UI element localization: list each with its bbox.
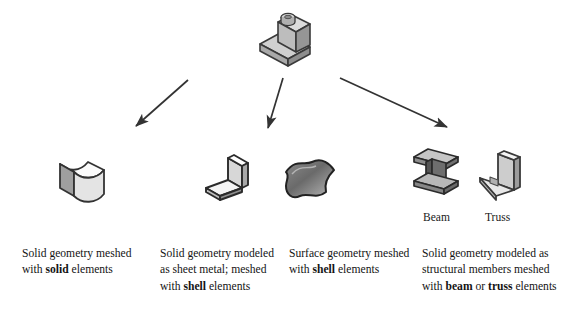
label-truss: Truss (485, 211, 510, 224)
caption-sheet-metal: Solid geometry modeled as sheet metal; m… (160, 246, 284, 295)
surface-patch-icon (278, 150, 342, 212)
caption-solid: Solid geometry meshed with solid element… (22, 246, 148, 279)
sheet-metal-bend-icon (194, 150, 258, 212)
solid-block-icon (50, 146, 114, 208)
arrow-to-shell-surface (268, 78, 283, 128)
solid-cad-part-icon (252, 8, 318, 72)
diagram-canvas: Beam Truss Solid geometry meshed with so… (0, 0, 569, 314)
arrow-to-solid (136, 80, 188, 126)
caption-structural: Solid geometry modeled as structural mem… (422, 246, 564, 295)
c-channel-truss-icon (468, 146, 532, 208)
caption-surface: Surface geometry meshed with shell eleme… (289, 246, 413, 279)
label-beam: Beam (423, 211, 450, 224)
arrow-to-structural (340, 78, 447, 127)
i-beam-icon (404, 143, 468, 205)
